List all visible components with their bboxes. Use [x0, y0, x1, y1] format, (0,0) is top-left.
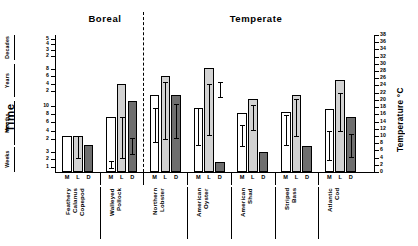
- error-bar-cap: [218, 82, 223, 83]
- y2-axis-tick-label: 8: [380, 140, 390, 145]
- y-axis-tick-label: 4: [16, 128, 49, 133]
- error-bar: [340, 93, 341, 131]
- bar-d: [128, 101, 138, 172]
- error-bar-cap: [251, 130, 256, 131]
- y2-axis-tick-label: 36: [380, 39, 390, 44]
- y-axis-tick-label: 2: [16, 156, 49, 161]
- y-axis-tick-label: 6: [16, 119, 49, 124]
- y2-axis-tick: [375, 136, 379, 137]
- y2-axis-tick: [375, 158, 379, 159]
- bar-letter-d: D: [170, 174, 182, 180]
- error-bar-cap: [327, 131, 332, 132]
- bar-letter-d: D: [345, 174, 357, 180]
- bar-letter-d: D: [257, 174, 269, 180]
- region-divider: [143, 12, 144, 172]
- error-bar-cap: [120, 117, 125, 118]
- y2-axis-tick: [375, 100, 379, 101]
- y2-axis-tick: [375, 172, 379, 173]
- x-axis-category-label: Atlantic Cod: [326, 188, 340, 242]
- y-axis-tick: [51, 139, 55, 140]
- x-axis-category-label: Striped Bass: [283, 188, 297, 242]
- error-bar-cap: [76, 136, 81, 137]
- error-bar-cap: [284, 145, 289, 146]
- error-bar-cap: [338, 93, 343, 94]
- y-axis-tick: [51, 131, 55, 132]
- error-bar-cap: [109, 168, 114, 169]
- y2-axis-tick-label: 18: [380, 104, 390, 109]
- error-bar-cap: [218, 97, 223, 98]
- figure-root: Time Temperature °C Boreal Temperate Wee…: [0, 0, 418, 246]
- y-axis-segment-years: Years: [4, 64, 12, 97]
- y2-axis-tick-label: 34: [380, 46, 390, 51]
- y-axis-tick: [51, 91, 55, 92]
- bar-d: [302, 146, 312, 172]
- error-bar-cap: [240, 146, 245, 147]
- group-separator: [318, 173, 319, 185]
- y2-axis-tick-label: 28: [380, 68, 390, 73]
- y2-axis-tick-label: 38: [380, 32, 390, 37]
- y-axis-tick: [51, 152, 55, 153]
- y-axis-tick-label: 2: [16, 88, 49, 93]
- y2-axis-tick: [375, 122, 379, 123]
- y-axis-segment-months: Months: [4, 101, 12, 145]
- y2-axis-tick: [375, 71, 379, 72]
- y2-axis-tick: [375, 35, 379, 36]
- category-label-separator: [100, 187, 101, 239]
- error-bar: [286, 115, 287, 145]
- error-bar-cap: [284, 115, 289, 116]
- error-bar-cap: [76, 158, 81, 159]
- error-bar: [78, 136, 79, 158]
- y-axis-segment-rule: [14, 64, 15, 97]
- error-bar-cap: [338, 131, 343, 132]
- error-bar: [329, 131, 330, 160]
- y-axis-segment-rule: [14, 147, 15, 172]
- error-bar-cap: [174, 104, 179, 105]
- y-axis-tick-label: 10: [16, 103, 49, 108]
- y2-axis-tick: [375, 78, 379, 79]
- y-axis-tick-label: 4: [16, 81, 49, 86]
- y2-axis-tick-label: 14: [380, 119, 390, 124]
- error-bar-cap: [153, 108, 158, 109]
- error-bar-cap: [207, 84, 212, 85]
- y2-axis-tick-label: 12: [380, 126, 390, 131]
- error-bar-cap: [196, 108, 201, 109]
- y2-axis-tick-label: 26: [380, 75, 390, 80]
- bar-d: [84, 145, 94, 172]
- plot-area: [56, 27, 362, 174]
- error-bar-cap: [109, 161, 114, 162]
- y2-axis-tick-label: 0: [380, 169, 390, 174]
- error-bar-cap: [153, 142, 158, 143]
- y-axis-tick-label: 2: [16, 53, 49, 58]
- error-bar: [253, 105, 254, 130]
- error-bar: [155, 108, 156, 142]
- y-axis-tick-label: 2: [16, 136, 49, 141]
- category-label-separator: [275, 187, 276, 239]
- y-axis-tick: [51, 84, 55, 85]
- y-axis-tick-label: 6: [16, 73, 49, 78]
- y2-axis-tick-label: 4: [380, 155, 390, 160]
- error-bar: [209, 84, 210, 135]
- y2-axis-tick-label: 10: [380, 133, 390, 138]
- y2-axis-tick-label: 30: [380, 61, 390, 66]
- y2-axis-tick: [375, 42, 379, 43]
- y-axis-tick-label: 3: [16, 149, 49, 154]
- y2-axis-tick-label: 32: [380, 54, 390, 59]
- category-label-separator: [318, 187, 319, 239]
- y-axis-tick-label: 1: [16, 164, 49, 169]
- x-axis-category-label: Walleyed Pollock: [108, 188, 122, 242]
- group-separator: [143, 173, 144, 185]
- y2-axis-tick-label: 2: [380, 162, 390, 167]
- error-bar: [242, 125, 243, 146]
- y-axis-tick: [51, 167, 55, 168]
- bar-d: [215, 162, 225, 172]
- group-separator: [100, 173, 101, 185]
- bar-d: [259, 152, 269, 173]
- y2-axis-tick-label: 16: [380, 111, 390, 116]
- error-bar-cap: [327, 160, 332, 161]
- error-bar-cap: [349, 157, 354, 158]
- error-bar-cap: [163, 82, 168, 83]
- x-axis-category-label: American Shad: [239, 188, 253, 242]
- y-axis-tick: [51, 44, 55, 45]
- y-axis-tick-label: 4: [16, 41, 49, 46]
- y-axis-tick: [51, 122, 55, 123]
